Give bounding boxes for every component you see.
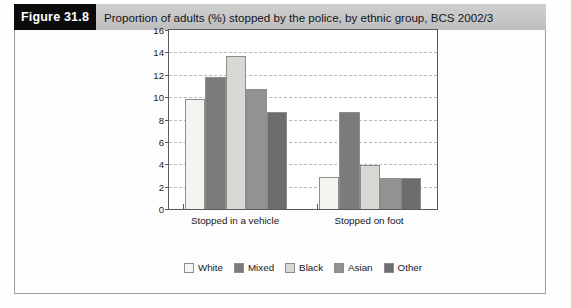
category-label: Stopped in a vehicle — [191, 215, 279, 226]
legend-item-mixed[interactable]: Mixed — [234, 262, 274, 273]
bar-mixed-group1 — [205, 77, 226, 209]
figure-page: Figure 31.8 Proportion of adults (%) sto… — [0, 0, 571, 308]
bar-asian-group1 — [246, 89, 267, 209]
y-axis-tick-label: 6 — [159, 136, 164, 147]
legend-label: White — [198, 262, 223, 273]
y-axis-tick-label: 14 — [153, 47, 164, 58]
legend-item-white[interactable]: White — [184, 262, 223, 273]
bar-black-group2 — [360, 165, 381, 209]
y-axis-tick-label: 0 — [159, 204, 164, 215]
chart-bars-layer — [169, 30, 437, 209]
bar-mixed-group2 — [339, 112, 360, 209]
category-tick — [317, 204, 318, 209]
bar-white-group2 — [319, 177, 340, 209]
bar-black-group1 — [226, 56, 247, 209]
legend-item-asian[interactable]: Asian — [334, 262, 373, 273]
figure-number-tag: Figure 31.8 — [14, 4, 96, 30]
y-axis-tick-label: 16 — [153, 25, 164, 36]
bar-white-group1 — [185, 99, 206, 209]
y-axis-tick-mark — [165, 209, 169, 210]
y-axis-tick-label: 12 — [153, 69, 164, 80]
category-label: Stopped on foot — [334, 215, 403, 226]
legend-swatch-icon — [384, 263, 394, 273]
bar-other-group1 — [267, 112, 288, 209]
figure-caption: Proportion of adults (%) stopped by the … — [104, 4, 544, 30]
legend-swatch-icon — [334, 263, 344, 273]
legend-item-black[interactable]: Black — [285, 262, 323, 273]
y-axis-tick-label: 4 — [159, 159, 164, 170]
bar-asian-group2 — [380, 178, 401, 209]
y-axis-tick-label: 8 — [159, 114, 164, 125]
legend-label: Other — [398, 262, 423, 273]
legend-swatch-icon — [285, 263, 295, 273]
category-tick — [183, 204, 184, 209]
legend-label: Asian — [348, 262, 373, 273]
legend-swatch-icon — [234, 263, 244, 273]
y-axis-tick-label: 10 — [153, 92, 164, 103]
chart-legend: WhiteMixedBlackAsianOther — [168, 262, 438, 273]
y-axis-tick-label: 2 — [159, 181, 164, 192]
bar-other-group2 — [401, 178, 422, 209]
legend-item-other[interactable]: Other — [384, 262, 423, 273]
legend-swatch-icon — [184, 263, 194, 273]
legend-label: Mixed — [248, 262, 274, 273]
legend-label: Black — [299, 262, 323, 273]
chart-plot-area: 0246810121416 — [168, 29, 438, 210]
